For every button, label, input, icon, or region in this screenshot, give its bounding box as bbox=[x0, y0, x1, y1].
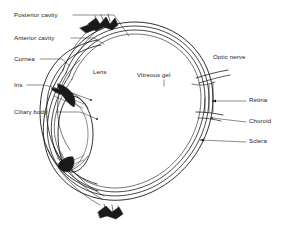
optic-nerve-lower-sheath bbox=[196, 112, 223, 115]
label-cornea: Cornea bbox=[14, 56, 35, 62]
label-lens: Lens bbox=[93, 69, 107, 75]
label-iris: Iris bbox=[14, 82, 23, 88]
muscle-attachment-bottom bbox=[98, 204, 123, 219]
leader-iris bbox=[27, 85, 56, 88]
arrowhead-choroid bbox=[211, 117, 213, 119]
eye-anatomy-figure: Posterior cavity Anterior cavity Cornea … bbox=[0, 0, 285, 235]
retina-outline bbox=[51, 30, 205, 192]
arrowhead-sclera bbox=[200, 139, 204, 142]
label-sclera: Sclera bbox=[249, 138, 267, 144]
label-ciliary-body: Ciliary body bbox=[14, 109, 47, 115]
iris-upper bbox=[58, 84, 75, 107]
optic-nerve-sclera-step bbox=[205, 98, 213, 112]
leader-dot-ciliary-body bbox=[96, 118, 98, 120]
sclera-lower-sweep bbox=[48, 147, 104, 205]
label-posterior-cavity: Posterior cavity bbox=[14, 12, 58, 18]
label-optic-nerve: Optic nerve bbox=[213, 54, 246, 60]
label-vitreous-gel: Vitreous gel bbox=[137, 72, 171, 78]
label-anterior-cavity: Anterior cavity bbox=[14, 35, 54, 41]
sclera-outline bbox=[43, 22, 213, 200]
label-retina: Retina bbox=[249, 97, 267, 103]
optic-nerve-upper-inner bbox=[199, 75, 230, 83]
label-choroid: Choroid bbox=[249, 118, 271, 124]
leader-dot-lens bbox=[90, 99, 92, 101]
vitreous-chamber-boundary bbox=[54, 34, 201, 188]
arrow-sclera bbox=[200, 140, 246, 142]
leader-anterior-cavity bbox=[71, 38, 104, 44]
